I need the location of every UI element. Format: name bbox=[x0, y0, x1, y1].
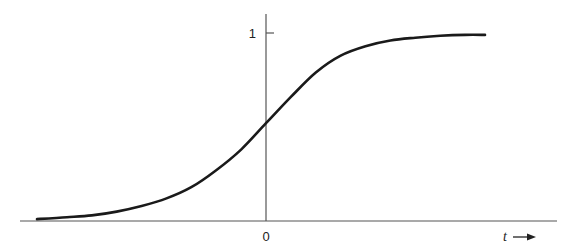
x-axis-arrow-icon bbox=[513, 234, 536, 241]
x-tick-label-0: 0 bbox=[262, 229, 269, 244]
chart: 1 0 t bbox=[0, 0, 572, 251]
x-axis-label: t bbox=[503, 229, 508, 244]
series-line-sigmoid bbox=[37, 35, 485, 219]
y-tick-label-1: 1 bbox=[249, 26, 256, 41]
